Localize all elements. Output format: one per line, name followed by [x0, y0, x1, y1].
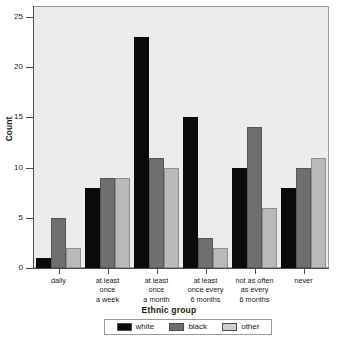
y-axis-tick-label: 5	[0, 214, 23, 222]
bar-other-4	[262, 208, 277, 268]
bar-white-5	[281, 188, 296, 268]
x-axis-tick	[108, 269, 109, 274]
y-axis-title: Count	[4, 101, 14, 157]
x-axis-line	[33, 268, 329, 269]
plot-area	[34, 7, 328, 268]
legend-item-other: other	[222, 323, 259, 331]
bar-white-3	[183, 117, 198, 268]
bar-white-1	[85, 188, 100, 268]
x-axis-tick	[255, 269, 256, 274]
x-axis-category-label: never	[271, 276, 337, 285]
y-axis-tick-label: 25	[0, 13, 23, 21]
y-axis-tick	[26, 268, 33, 269]
legend-swatch-other	[222, 323, 237, 331]
x-axis-tick	[304, 269, 305, 274]
y-axis-tick-label: 10	[0, 164, 23, 172]
bar-black-1	[100, 178, 115, 268]
x-axis-tick	[157, 269, 158, 274]
x-axis-label-line: never	[271, 276, 337, 285]
y-axis-tick	[26, 17, 33, 18]
x-axis-tick	[206, 269, 207, 274]
bar-black-5	[296, 168, 311, 268]
bar-black-3	[198, 238, 213, 268]
legend-label: other	[241, 323, 259, 331]
legend-title: Ethnic group	[0, 305, 338, 315]
bar-white-0	[36, 258, 51, 268]
bar-white-2	[134, 37, 149, 268]
bar-other-1	[115, 178, 130, 268]
bar-black-0	[51, 218, 66, 268]
bar-chart: Count 0510152025 dailyat leastoncea week…	[0, 0, 338, 338]
legend-item-black: black	[169, 323, 207, 331]
bar-black-2	[149, 158, 164, 268]
legend-label: white	[136, 323, 155, 331]
bar-black-4	[247, 127, 262, 268]
y-axis-tick	[26, 67, 33, 68]
bar-other-0	[66, 248, 81, 268]
y-axis-tick-label: 0	[0, 264, 23, 272]
bar-white-4	[232, 168, 247, 268]
y-axis-tick-label: 15	[0, 113, 23, 121]
legend-label: black	[188, 323, 207, 331]
legend-swatch-black	[169, 323, 184, 331]
bar-other-2	[164, 168, 179, 268]
y-axis-tick	[26, 218, 33, 219]
legend-swatch-white	[117, 323, 132, 331]
x-axis-label-line: as every	[222, 285, 288, 294]
x-axis-label-line: 6 months	[222, 295, 288, 304]
y-axis-tick	[26, 168, 33, 169]
legend-item-white: white	[117, 323, 155, 331]
legend: whiteblackother	[104, 319, 272, 335]
y-axis-tick-label: 20	[0, 63, 23, 71]
x-axis-tick	[59, 269, 60, 274]
y-axis-tick	[26, 117, 33, 118]
bar-other-3	[213, 248, 228, 268]
bar-other-5	[311, 158, 326, 268]
